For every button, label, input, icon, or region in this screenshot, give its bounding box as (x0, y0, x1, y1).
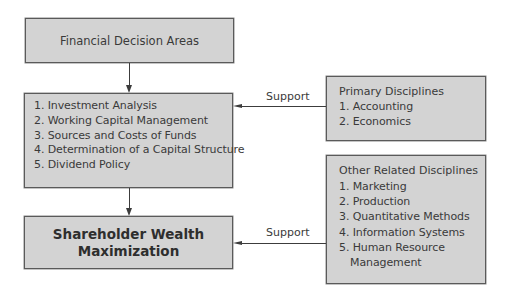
shareholder-wealth-maximization-box: Shareholder Wealth Maximization (24, 216, 233, 269)
financial-decision-areas-box: Financial Decision Areas (25, 18, 234, 63)
discipline-item: 3. Quantitative Methods (339, 209, 485, 224)
primary-disciplines-box: Primary Disciplines 1. Accounting 2. Eco… (326, 76, 486, 141)
discipline-item: 5. Human Resource (339, 240, 485, 255)
arrowhead-down-icon (126, 208, 132, 216)
discipline-item: 1. Marketing (339, 179, 485, 194)
arrowhead-left-icon (233, 241, 242, 245)
primary-disciplines-title: Primary Disciplines (339, 84, 485, 99)
decision-area-item: 3. Sources and Costs of Funds (34, 129, 232, 144)
decision-area-item: 2. Working Capital Management (34, 114, 232, 129)
arrowhead-left-icon (233, 104, 242, 108)
connector-areas-to-goal (129, 188, 130, 209)
goal-label-line1: Shareholder Wealth (53, 226, 204, 243)
decision-areas-list-box: 1. Investment Analysis 2. Working Capita… (24, 93, 233, 188)
discipline-item: 1. Accounting (339, 100, 485, 115)
goal-label-line2: Maximization (78, 243, 180, 260)
other-disciplines-list: 1. Marketing 2. Production 3. Quantitati… (339, 179, 485, 270)
discipline-item-continuation: Management (339, 255, 485, 270)
support-label-other: Support (266, 226, 309, 239)
decision-area-item: 4. Determination of a Capital Structure (34, 143, 232, 158)
decision-area-item: 1. Investment Analysis (34, 99, 232, 114)
primary-disciplines-list: 1. Accounting 2. Economics (339, 100, 485, 129)
connector-other-to-goal (238, 243, 326, 244)
decision-areas-list: 1. Investment Analysis 2. Working Capita… (34, 99, 232, 173)
connector-primary-to-areas (238, 106, 326, 107)
financial-decision-areas-label: Financial Decision Areas (60, 34, 199, 48)
support-label-primary: Support (266, 90, 309, 103)
connector-fda-to-areas (129, 63, 130, 86)
arrowhead-down-icon (126, 85, 132, 93)
discipline-item: 2. Production (339, 194, 485, 209)
discipline-item: 4. Information Systems (339, 225, 485, 240)
discipline-item: 2. Economics (339, 115, 485, 130)
other-disciplines-title: Other Related Disciplines (339, 163, 485, 178)
other-disciplines-box: Other Related Disciplines 1. Marketing 2… (326, 155, 486, 284)
decision-area-item: 5. Dividend Policy (34, 158, 232, 173)
